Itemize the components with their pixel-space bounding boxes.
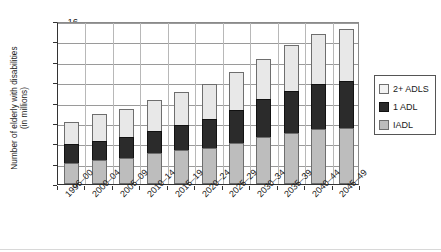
x-tick-mark <box>57 186 58 190</box>
gray-square-swatch <box>379 120 389 130</box>
bar-group[interactable] <box>202 84 217 184</box>
bar-segment-adl2[interactable] <box>202 84 217 119</box>
bar-segment-adl1[interactable] <box>339 81 354 128</box>
bar-segment-adl2[interactable] <box>284 45 299 91</box>
stacked-bar-chart: Number of elderly with disabilities (in … <box>0 0 441 252</box>
bar-segment-adl1[interactable] <box>229 110 244 144</box>
x-tick-mark <box>139 186 140 190</box>
x-tick-mark <box>332 186 333 190</box>
x-tick-mark <box>112 186 113 190</box>
bar-series-container <box>58 23 358 184</box>
bar-segment-adl2[interactable] <box>174 92 189 125</box>
bar-segment-adl2[interactable] <box>229 72 244 110</box>
bar-group[interactable] <box>119 109 134 184</box>
x-tick-mark <box>304 186 305 190</box>
bar-segment-adl2[interactable] <box>147 100 162 131</box>
x-tick-mark <box>359 186 360 190</box>
bar-group[interactable] <box>284 45 299 184</box>
chart-legend: 2+ ADLS1 ADLIADL <box>374 75 436 135</box>
plot-area <box>57 22 359 185</box>
x-tick-mark <box>222 186 223 190</box>
legend-label: IADL <box>393 120 413 130</box>
bar-group[interactable] <box>311 34 326 184</box>
bar-segment-adl1[interactable] <box>284 91 299 133</box>
bar-segment-adl2[interactable] <box>311 34 326 84</box>
x-tick-mark <box>249 186 250 190</box>
x-tick-mark <box>167 186 168 190</box>
bar-segment-adl2[interactable] <box>92 114 107 141</box>
bottom-divider <box>0 249 441 250</box>
bar-group[interactable] <box>229 72 244 184</box>
x-tick-mark <box>277 186 278 190</box>
chart-figure: Number of elderly with disabilities (in … <box>0 0 441 252</box>
bar-group[interactable] <box>174 92 189 184</box>
bar-group[interactable] <box>339 29 354 184</box>
legend-label: 1 ADL <box>393 102 418 112</box>
bar-segment-adl1[interactable] <box>92 141 107 159</box>
bar-segment-adl2[interactable] <box>119 109 134 138</box>
legend-label: 2+ ADLS <box>393 84 429 94</box>
bar-segment-adl2[interactable] <box>64 122 79 144</box>
legend-item[interactable]: 2+ ADLS <box>379 80 432 98</box>
bar-group[interactable] <box>64 122 79 184</box>
bar-segment-adl1[interactable] <box>174 125 189 150</box>
bar-group[interactable] <box>147 100 162 184</box>
bar-segment-adl1[interactable] <box>202 119 217 149</box>
bar-group[interactable] <box>256 59 271 184</box>
bar-segment-adl2[interactable] <box>256 59 271 100</box>
black-square-swatch <box>379 102 389 112</box>
x-tick-mark <box>194 186 195 190</box>
bar-segment-iadl[interactable] <box>311 129 326 184</box>
white-square-swatch <box>379 84 389 94</box>
bar-segment-adl1[interactable] <box>311 84 326 129</box>
bar-segment-adl2[interactable] <box>339 29 354 81</box>
bar-segment-adl1[interactable] <box>147 131 162 153</box>
bar-segment-adl1[interactable] <box>64 144 79 162</box>
bar-segment-adl1[interactable] <box>256 99 271 137</box>
y-axis-title-line-2: (in millions) <box>20 18 30 198</box>
x-tick-mark <box>84 186 85 190</box>
legend-item[interactable]: IADL <box>379 116 432 134</box>
y-axis-title-line-1: Number of elderly with disabilities <box>10 18 20 198</box>
bar-segment-adl1[interactable] <box>119 137 134 157</box>
y-axis-title: Number of elderly with disabilities (in … <box>10 18 34 198</box>
legend-item[interactable]: 1 ADL <box>379 98 432 116</box>
